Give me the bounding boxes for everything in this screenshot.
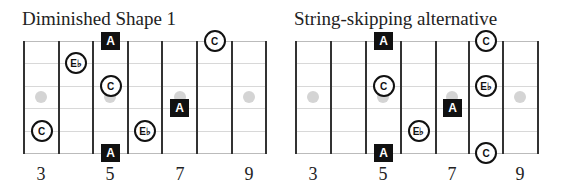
fret-line: [435, 41, 437, 154]
note-marker: C: [475, 30, 497, 52]
fret-line: [295, 41, 297, 154]
fret-number-label: 7: [170, 164, 190, 185]
note-marker: E♭: [475, 75, 497, 97]
note-marker: C: [373, 75, 395, 97]
note-marker: E♭: [134, 120, 156, 142]
fret-line: [330, 41, 332, 154]
fret-line: [161, 41, 163, 154]
note-marker: E♭: [408, 120, 430, 142]
fret-line: [92, 41, 94, 154]
inlay-dot-icon: [35, 91, 47, 103]
fret-number-label: 9: [239, 164, 259, 185]
root-note-marker: A: [374, 144, 393, 162]
root-note-marker: A: [170, 99, 189, 117]
fret-line: [127, 41, 129, 154]
inlay-dot-icon: [307, 91, 319, 103]
fret-line: [58, 41, 60, 154]
fret-line: [265, 41, 267, 154]
fret-line: [231, 41, 233, 154]
fret-line: [468, 41, 470, 154]
root-note-marker: A: [101, 144, 120, 162]
fret-number-label: 3: [31, 164, 51, 185]
fret-number-label: 5: [100, 164, 120, 185]
fret-line: [196, 41, 198, 154]
inlay-dot-icon: [514, 91, 526, 103]
note-marker: C: [31, 120, 53, 142]
fret-number-label: 5: [373, 164, 393, 185]
fret-line: [23, 41, 25, 154]
note-marker: C: [100, 75, 122, 97]
fret-number-label: 9: [510, 164, 530, 185]
fret-number-label: 3: [303, 164, 323, 185]
fret-line: [502, 41, 504, 154]
fret-line: [365, 41, 367, 154]
diagram-title: String-skipping alternative: [294, 8, 497, 30]
note-marker: C: [475, 142, 497, 164]
root-note-marker: A: [443, 99, 462, 117]
note-marker: C: [204, 30, 226, 52]
fret-line: [400, 41, 402, 154]
fretboard-diagrams: Diminished Shape 13579ACE♭CAE♭CAString-s…: [0, 0, 563, 193]
root-note-marker: A: [374, 32, 393, 50]
root-note-marker: A: [101, 32, 120, 50]
inlay-dot-icon: [243, 91, 255, 103]
fret-number-label: 7: [442, 164, 462, 185]
diagram-title: Diminished Shape 1: [22, 8, 176, 30]
fret-line: [537, 41, 539, 154]
note-marker: E♭: [65, 52, 87, 74]
